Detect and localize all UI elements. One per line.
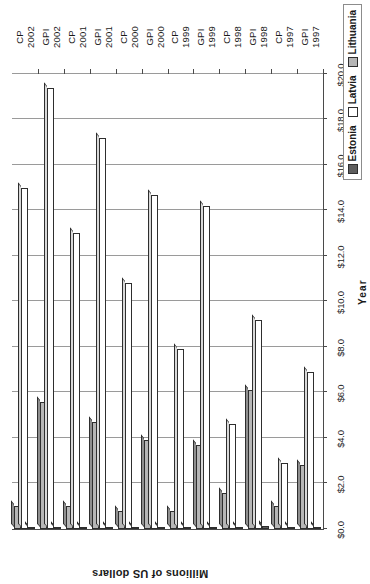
legend-item-estonia[interactable]: Estonia bbox=[347, 125, 358, 174]
bar-row bbox=[99, 74, 106, 529]
category-axis-tick-label: GPI1998 bbox=[247, 4, 269, 70]
bar-latvia[interactable] bbox=[203, 206, 210, 529]
bar-row bbox=[54, 74, 61, 529]
legend-swatch-estonia bbox=[348, 164, 358, 174]
category-axis-tick-label: GPI2000 bbox=[144, 4, 166, 70]
bar-row bbox=[158, 74, 165, 529]
bar-latvia[interactable] bbox=[47, 88, 54, 529]
category-axis-tick-label: GPI2001 bbox=[92, 4, 114, 70]
category-axis-tick-label: GPI1997 bbox=[299, 4, 321, 70]
legend-item-lithuania[interactable]: Lithuania bbox=[347, 10, 358, 67]
category-tick bbox=[90, 69, 91, 74]
bar-row bbox=[125, 74, 132, 529]
bar-group bbox=[90, 74, 116, 529]
category-tick bbox=[142, 69, 143, 74]
category-axis-tick-label: CP1998 bbox=[221, 4, 243, 70]
category-axis-tick-label: GPI1999 bbox=[195, 4, 217, 70]
category-tick bbox=[323, 69, 324, 74]
bar-latvia[interactable] bbox=[281, 463, 288, 529]
bar-row bbox=[177, 74, 184, 529]
bar-latvia[interactable] bbox=[177, 349, 184, 529]
bar-row bbox=[203, 74, 210, 529]
bar-row bbox=[184, 74, 191, 529]
bar-group bbox=[297, 74, 323, 529]
bar-estonia[interactable] bbox=[288, 527, 295, 529]
bar-estonia[interactable] bbox=[262, 526, 269, 529]
category-axis-tick-label: GPI2002 bbox=[40, 4, 62, 70]
chart-rotation-container: Millions of US dollars $0.0$2.0$4.0$6.0$… bbox=[0, 0, 370, 584]
bar-latvia[interactable] bbox=[307, 372, 314, 529]
bar-row bbox=[73, 74, 80, 529]
bar-latvia[interactable] bbox=[21, 188, 28, 529]
bar-latvia[interactable] bbox=[151, 195, 158, 529]
axis-tick bbox=[323, 437, 327, 438]
legend-label: Estonia bbox=[347, 125, 358, 161]
bar-group bbox=[38, 74, 64, 529]
bar-group bbox=[271, 74, 297, 529]
chart-legend: EstoniaLatviaLithuania bbox=[343, 4, 362, 180]
bar-row bbox=[132, 74, 139, 529]
category-tick bbox=[64, 69, 65, 74]
bar-group bbox=[193, 74, 219, 529]
bar-estonia[interactable] bbox=[314, 527, 321, 529]
bar-row bbox=[255, 74, 262, 529]
axis-tick bbox=[323, 119, 327, 120]
bar-row bbox=[47, 74, 54, 529]
axis-tick bbox=[323, 392, 327, 393]
bar-estonia[interactable] bbox=[54, 527, 61, 529]
bar-chart-figure: Millions of US dollars $0.0$2.0$4.0$6.0$… bbox=[0, 0, 370, 584]
axis-tick bbox=[323, 255, 327, 256]
bar-estonia[interactable] bbox=[28, 527, 35, 529]
bar-estonia[interactable] bbox=[210, 527, 217, 529]
value-axis-tick-label: $2.0 bbox=[335, 476, 346, 494]
category-tick bbox=[245, 69, 246, 74]
plot-area-wrapper: $0.0$2.0$4.0$6.0$8.0$10.0$12.0$14.0$16.0… bbox=[12, 74, 324, 530]
value-axis-tick-label: $4.0 bbox=[335, 430, 346, 448]
chart-stage: Millions of US dollars $0.0$2.0$4.0$6.0$… bbox=[0, 0, 370, 584]
bar-latvia[interactable] bbox=[73, 233, 80, 529]
bar-estonia[interactable] bbox=[184, 527, 191, 529]
bar-row bbox=[307, 74, 314, 529]
category-axis-tick-label: CP2000 bbox=[118, 4, 140, 70]
value-axis-title: Millions of US dollars bbox=[0, 566, 300, 582]
bar-estonia[interactable] bbox=[236, 527, 243, 529]
bar-row bbox=[314, 74, 321, 529]
category-axis-tick-label: CP2001 bbox=[66, 4, 88, 70]
bar-estonia[interactable] bbox=[158, 527, 165, 529]
bar-group bbox=[12, 74, 38, 529]
bar-row bbox=[262, 74, 269, 529]
value-axis-tick-label: $14.0 bbox=[335, 200, 346, 223]
bar-estonia[interactable] bbox=[132, 527, 139, 529]
bar-row bbox=[21, 74, 28, 529]
bar-row bbox=[288, 74, 295, 529]
axis-tick bbox=[323, 346, 327, 347]
category-tick bbox=[38, 69, 39, 74]
bar-latvia[interactable] bbox=[99, 138, 106, 529]
category-tick bbox=[116, 69, 117, 74]
bar-row bbox=[80, 74, 87, 529]
bar-row bbox=[281, 74, 288, 529]
bar-row bbox=[236, 74, 243, 529]
category-axis-tick-label: CP1999 bbox=[169, 4, 191, 70]
bar-row bbox=[28, 74, 35, 529]
axis-tick bbox=[323, 164, 327, 165]
bar-estonia[interactable] bbox=[106, 527, 113, 529]
legend-swatch-latvia bbox=[348, 107, 358, 117]
bar-latvia[interactable] bbox=[229, 424, 236, 529]
category-tick bbox=[297, 69, 298, 74]
bar-estonia[interactable] bbox=[80, 527, 87, 529]
bar-group bbox=[168, 74, 194, 529]
category-axis-tick-label: CP2002 bbox=[14, 4, 36, 70]
bar-latvia[interactable] bbox=[125, 283, 132, 529]
category-axis-tick-label: CP1997 bbox=[273, 4, 295, 70]
bar-row bbox=[229, 74, 236, 529]
value-axis-tick-label: $10.0 bbox=[335, 291, 346, 314]
category-tick bbox=[271, 69, 272, 74]
legend-label: Lithuania bbox=[347, 10, 358, 54]
axis-tick bbox=[323, 528, 327, 529]
axis-tick bbox=[323, 483, 327, 484]
value-axis-tick-label: $6.0 bbox=[335, 385, 346, 403]
legend-swatch-lithuania bbox=[348, 57, 358, 67]
legend-item-latvia[interactable]: Latvia bbox=[347, 75, 358, 117]
bar-latvia[interactable] bbox=[255, 320, 262, 529]
